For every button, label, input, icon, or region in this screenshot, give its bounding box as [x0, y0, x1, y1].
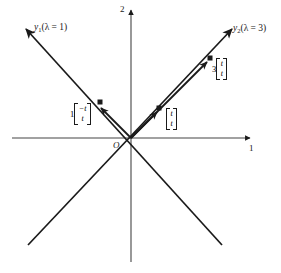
- bracket-serif: [173, 129, 176, 130]
- annotation-outer-right-column: t t: [219, 59, 225, 79]
- bracket-serif: [173, 108, 176, 109]
- annotation-outer-right-vector: 3 t t: [212, 58, 227, 80]
- bracket-serif: [223, 58, 226, 59]
- eigen-axis-y1-label: y1(λ = 1): [34, 23, 67, 33]
- annotation-outer-right-bracket: t t: [216, 58, 227, 80]
- diagram-canvas: [0, 0, 281, 273]
- horizontal-axis-label: 1: [249, 144, 254, 153]
- annotation-inner-right-entry-bottom: t: [171, 119, 173, 129]
- annotation-left-column: −t t: [77, 104, 89, 124]
- eigen-axis-y1-eigenvalue: (λ = 1): [41, 22, 67, 32]
- vertical-axis-label: 2: [120, 5, 125, 14]
- eigenvector-diagram: 1 2 O y1(λ = 1) y2(λ = 3) 1 −t t t t: [0, 0, 281, 273]
- annotation-inner-right-entry-top: t: [171, 109, 173, 119]
- vector-arrow-left: [101, 108, 131, 138]
- annotation-inner-right-column: t t: [169, 109, 175, 129]
- annotation-left-entry-bottom: t: [81, 114, 83, 124]
- point-marker-left: [98, 100, 103, 105]
- annotation-outer-right-entry-bottom: t: [221, 69, 223, 79]
- annotation-outer-right-entry-top: t: [221, 59, 223, 69]
- annotation-left-bracket: −t t: [74, 103, 91, 125]
- annotation-inner-right-vector: t t: [166, 108, 177, 130]
- bracket-serif: [87, 103, 90, 104]
- origin-label: O: [113, 141, 120, 150]
- annotation-left-vector: 1 −t t: [70, 103, 91, 125]
- annotation-inner-right-bracket: t t: [166, 108, 177, 130]
- bracket-serif: [87, 124, 90, 125]
- bracket-serif: [223, 79, 226, 80]
- eigen-axis-y1-line: [26, 29, 222, 245]
- annotation-left-entry-top: −t: [79, 104, 87, 114]
- eigen-axis-y2-eigenvalue: (λ = 3): [240, 23, 266, 33]
- point-marker-inner-right: [157, 106, 162, 111]
- eigen-axis-y2-label: y2(λ = 3): [233, 24, 266, 34]
